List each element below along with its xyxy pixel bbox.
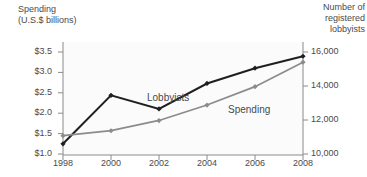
chart-container: Spending(U.S.$ billions) Number ofregist… [0, 0, 367, 177]
series-inline-label: Lobbyists [147, 92, 189, 103]
chart-plot-svg [0, 0, 367, 177]
series-inline-label: Spending [228, 104, 270, 115]
